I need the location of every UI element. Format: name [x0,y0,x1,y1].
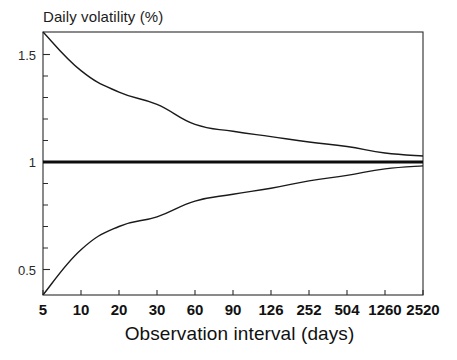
x-tick-label: 10 [73,301,90,318]
series-line-2 [43,166,423,295]
y-tick-label: 1.5 [8,47,36,62]
x-tick-label: 20 [111,301,128,318]
x-tick-label: 2520 [406,301,439,318]
x-tick-label: 90 [225,301,242,318]
data-series-group [43,32,423,295]
chart-figure: Daily volatility (%) 5102030609012625250… [0,0,457,360]
series-line-0 [43,32,423,156]
x-tick-label: 252 [296,301,321,318]
x-tick-label: 5 [39,301,47,318]
x-tick-label: 1260 [368,301,401,318]
x-tick-label: 504 [334,301,359,318]
x-tick-label: 60 [187,301,204,318]
x-tick-label: 126 [258,301,283,318]
x-tick-label: 30 [149,301,166,318]
y-tick-label: 1 [8,155,36,170]
x-axis-ticks [43,290,423,295]
y-tick-label: 0.5 [8,262,36,277]
x-axis-title-text: Observation interval (days) [103,322,355,345]
x-axis-title: Observation interval (days) [0,322,457,345]
